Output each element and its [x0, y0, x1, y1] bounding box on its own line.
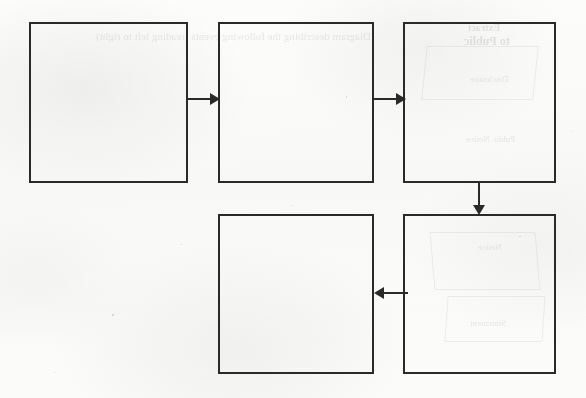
flowchart-node-box-4 [218, 214, 374, 374]
node-label [405, 24, 406, 25]
flowchart-node-box-5 [403, 214, 556, 374]
flowchart-node-box-1 [29, 22, 188, 183]
flowchart-arrow-box1-to-box2 [186, 88, 222, 110]
flowchart-node-box-3 [403, 22, 556, 183]
node-label [220, 24, 221, 25]
node-label [31, 24, 32, 25]
flowchart-arrow-box3-to-box5 [468, 181, 490, 217]
scanned-page: Diagram describing the following events … [0, 0, 586, 398]
node-label [405, 216, 406, 217]
flowchart-arrow-box5-to-box4 [372, 282, 408, 304]
node-label [220, 216, 221, 217]
flowchart [0, 0, 586, 398]
flowchart-node-box-2 [218, 22, 374, 183]
flowchart-arrow-box2-to-box3 [372, 88, 408, 110]
